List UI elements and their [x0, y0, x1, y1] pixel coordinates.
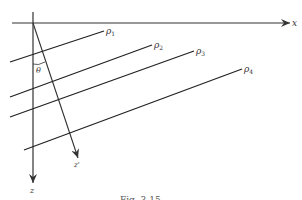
figure-caption: Fig. 3.15: [120, 195, 161, 200]
plane-rho-3-label: ρ3: [195, 46, 205, 57]
plane-rho-2-label: ρ2: [153, 40, 163, 51]
angle-arc: [33, 62, 45, 65]
plane-rho-4: [24, 69, 242, 150]
z-prime-label: z': [73, 161, 80, 169]
plane-rho-2: [10, 45, 152, 97]
plane-rho-4-label: ρ4: [243, 64, 253, 75]
plane-rho-1: [10, 31, 104, 62]
z-axis-label: z: [29, 186, 35, 195]
theta-label: θ: [36, 66, 41, 75]
plane-rho-3: [10, 51, 194, 117]
diagram: x z z' θ ρ1 ρ2 ρ3 ρ4 Fig. 3.15: [0, 0, 302, 200]
x-axis-label: x: [292, 18, 297, 28]
plane-rho-1-label: ρ1: [105, 26, 115, 37]
